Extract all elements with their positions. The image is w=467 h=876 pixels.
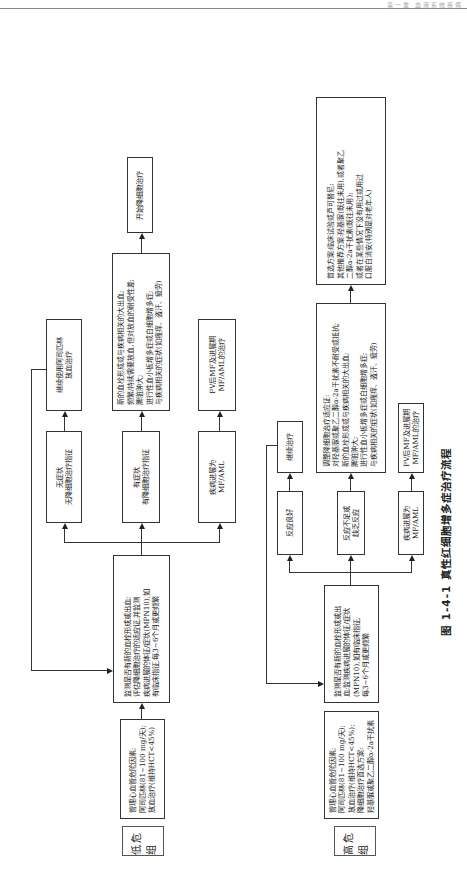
connector (289, 559, 290, 573)
loop-connector (266, 445, 267, 684)
high-risk-group-label: 高危组 (334, 826, 376, 856)
connector (31, 369, 32, 386)
start-cytoreduction-box: 开始降细胞治疗 (127, 157, 153, 233)
connector (289, 477, 290, 491)
arrow-icon (348, 555, 354, 561)
text-line: 血;监测疾病进展的体征/症状 (342, 591, 351, 697)
arrow-icon (409, 555, 415, 561)
arrow-icon (62, 411, 68, 417)
connector (350, 477, 351, 491)
text-line: 进行性血小板增多症或白细胞增多症; (146, 259, 155, 405)
text-line: 进行性血小板增多症或白细胞增多症; (360, 309, 369, 467)
arrow-icon (348, 285, 354, 291)
text-line: 阿司匹林(81~100 mg/天); (138, 725, 147, 813)
text-line: 疾病进展为 (402, 506, 411, 541)
text-line: 脾脏肿大; (351, 309, 360, 467)
arrow-icon (139, 411, 145, 417)
connector (350, 559, 351, 573)
text-line: 无症状 (55, 467, 64, 488)
low-risk-monitor-box: 监测是否有新的血栓形成或出血; 评估降细胞治疗的适应证,并监测 疾病进展的体征/… (113, 555, 170, 703)
text-line: 新的血栓形成或与疾病相关的大出血; (117, 259, 126, 405)
text-line: 放血治疗(维持HCT<45%); (347, 717, 356, 813)
text-line: (MPN10),如有临床指征, (352, 591, 361, 697)
low-risk-branch-asymptomatic: 无症状 无降细胞治疗指征 (46, 431, 82, 523)
high-risk-adjust-indications-box: 调整降细胞治疗适应证: 对羟基脲或聚乙二醇α-2a干扰素不耐受或抵抗; 新的血栓… (316, 303, 386, 473)
high-risk-group-text: 高危组 (340, 827, 370, 855)
low-risk-branch-progression: 疾病进展为 MF/AML (198, 431, 236, 523)
arrow-icon (139, 523, 145, 529)
low-risk-continue-aspirin-box: 继续使用阿司匹林 放血治疗 (46, 319, 82, 411)
loop-connector (31, 385, 32, 671)
text-line: 有症状 (132, 467, 141, 488)
text-line: 疾病进展为 (208, 460, 217, 495)
text-line: 继续治疗 (285, 433, 294, 461)
text-line: 新的血栓形成或与疾病相关的大出血; (342, 309, 351, 467)
text-line: 其他推荐方案:羟基脲(既往未用),或者聚乙 (337, 103, 346, 279)
text-line: 有降细胞治疗指征 (141, 449, 150, 505)
text-line: 脾脏肿大; (136, 259, 145, 405)
text-line: MF/AML (217, 461, 226, 493)
text-line: 开始降细胞治疗 (135, 171, 144, 220)
figure-caption: 图 1-4-1 真性红细胞增多症治疗流程 (438, 448, 453, 636)
text-line: 首选方案:临床试验或芦可替尼; (327, 103, 336, 279)
connector (411, 559, 412, 573)
text-line: 与疾病相关的症状(如瘙痒、盗汗、疲劳) (370, 309, 379, 467)
connector (350, 573, 351, 585)
text-line: 评估降细胞治疗的适应证,并监测 (132, 561, 141, 697)
connector (32, 369, 46, 370)
low-risk-group-label: 低危组 (122, 826, 164, 856)
arrow-icon (107, 668, 113, 674)
arrow-icon (139, 233, 145, 239)
text-line: 监测是否有新的血栓形成或出 (333, 591, 342, 697)
text-line: 反应良好 (285, 509, 294, 537)
flowchart-canvas: 低危组 管理心血管危险因素; 阿司匹林(81~100 mg/天); 放血治疗(维… (0, 0, 467, 876)
connector (64, 415, 65, 431)
arrow-icon (348, 473, 354, 479)
arrow-icon (62, 523, 68, 529)
loop-connector (266, 445, 277, 446)
arrow-icon (217, 411, 223, 417)
connector (141, 415, 142, 431)
text-line: 羟基脲或聚乙二醇α-2a干扰素 (366, 717, 375, 813)
text-line: 缺乏反应 (351, 509, 360, 537)
text-line: 管理心血管危险因素; (328, 717, 337, 813)
text-line: 与疾病相关的症状(如瘙痒、盗汗、疲劳) (155, 259, 164, 405)
text-line: 每3~6个月或更频繁 (361, 591, 370, 697)
text-line: 管理心血管危险因素; (128, 725, 137, 813)
high-risk-monitor-box: 监测是否有新的血栓形成或出 血;监测疾病进展的体征/症状 (MPN10),如有临… (324, 585, 379, 703)
arrow-icon (318, 681, 324, 687)
text-line: 监测是否有新的血栓形成或出血; (123, 561, 132, 697)
text-line: 疾病进展的体征/症状(MPN10),如 (142, 561, 151, 697)
arrow-icon (287, 555, 293, 561)
connector (219, 415, 220, 431)
connector (141, 527, 142, 543)
text-line: 或者在某些情况下没有用过或用过 (356, 103, 365, 279)
text-line: 放血治疗(维持HCT<45%) (147, 725, 156, 813)
text-line: 无降细胞治疗指征 (64, 449, 73, 505)
text-line: 降细胞治疗首选方案: (356, 717, 365, 813)
connector (219, 527, 220, 543)
high-risk-continue-treatment-box: 继续治疗 (277, 421, 303, 473)
text-line: 对羟基脲或聚乙二醇α-2a干扰素不耐受或抵抗; (332, 309, 341, 467)
connector (411, 477, 412, 491)
text-line: PV后MF及进展期 (402, 409, 411, 466)
loop-connector (266, 683, 318, 684)
text-line: 口服白消安(特别是对老年人) (365, 103, 374, 279)
low-risk-branch-symptomatic: 有症状 有降细胞治疗指征 (122, 431, 160, 523)
loop-connector (31, 670, 108, 671)
text-line: MF/AML的治疗 (217, 338, 226, 391)
text-line: 频繁/持续需要放血,但对放血的耐受性差; (127, 259, 136, 405)
high-risk-progression-box: 疾病进展为 MF/AML (398, 491, 424, 555)
high-risk-management-box: 管理心血管危险因素; 阿司匹林(81~100 mg/天); 放血治疗(维持HCT… (324, 711, 379, 819)
arrow-icon (139, 703, 145, 709)
high-risk-good-response-box: 反应良好 (277, 491, 303, 555)
low-risk-mf-aml-treatment-box: PV后MF及进展期 MF/AML的治疗 (198, 319, 236, 411)
high-risk-mf-aml-treatment-box: PV后MF及进展期 MF/AML的治疗 (398, 403, 424, 473)
low-risk-cytoreduction-indications-box: 新的血栓形成或与疾病相关的大出血; 频繁/持续需要放血,但对放血的耐受性差; 脾… (112, 253, 170, 411)
text-line: MF/AML (411, 507, 420, 539)
text-line: 调整降细胞治疗适应证: (323, 309, 332, 467)
connector (350, 289, 351, 303)
arrow-icon (217, 523, 223, 529)
connector (64, 527, 65, 543)
high-risk-inadequate-response-box: 反应不足或 缺乏反应 (337, 491, 365, 555)
